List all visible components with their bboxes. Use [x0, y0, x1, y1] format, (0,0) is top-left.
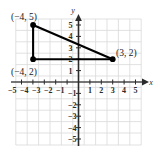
x-tick--3: −3: [32, 86, 41, 95]
y-axis-arrow-icon: [75, 14, 82, 21]
vertex-label-a: (−4, 5): [11, 12, 37, 23]
y-tick-labels-positive: 1 2 3 4 5: [69, 21, 73, 76]
vertex-label-c: (3, 2): [116, 48, 137, 59]
x-axis-arrow-icon: [142, 79, 149, 86]
x-tick-4: 4: [122, 86, 126, 95]
y-tick--4: −4: [68, 124, 77, 133]
point-marker-b: [30, 56, 36, 62]
y-tick--1: −1: [68, 89, 77, 98]
x-tick-5: 5: [134, 86, 138, 95]
y-tick-labels-negative: −1 −2 −3 −4 −5: [68, 89, 77, 144]
x-tick-2: 2: [99, 86, 103, 95]
axes: [11, 14, 149, 146]
coordinate-plane-svg: (−4, 5) (−4, 2) (3, 2) x y −5 −4 −3 −2 −…: [0, 0, 160, 153]
y-tick--2: −2: [68, 101, 77, 110]
x-tick-1: 1: [88, 86, 92, 95]
y-axis-label: y: [70, 6, 75, 15]
x-tick--5: −5: [8, 86, 17, 95]
x-tick-labels-negative: −5 −4 −3 −2 −1: [8, 86, 65, 95]
x-tick--2: −2: [44, 86, 53, 95]
y-tick--5: −5: [68, 135, 77, 144]
x-tick-3: 3: [111, 86, 115, 95]
y-tick-5: 5: [69, 21, 73, 30]
y-tick-3: 3: [69, 44, 73, 53]
vertex-label-b: (−4, 2): [11, 67, 37, 78]
y-tick--3: −3: [68, 112, 77, 121]
y-tick-4: 4: [69, 32, 73, 41]
y-tick-2: 2: [69, 55, 73, 64]
x-tick--1: −1: [56, 86, 65, 95]
point-marker-a: [30, 22, 36, 28]
y-tick-1: 1: [69, 67, 73, 76]
graph-figure: (−4, 5) (−4, 2) (3, 2) x y −5 −4 −3 −2 −…: [0, 0, 160, 153]
point-marker-c: [110, 56, 116, 62]
x-axis-label: x: [148, 78, 153, 87]
x-tick--4: −4: [20, 86, 29, 95]
